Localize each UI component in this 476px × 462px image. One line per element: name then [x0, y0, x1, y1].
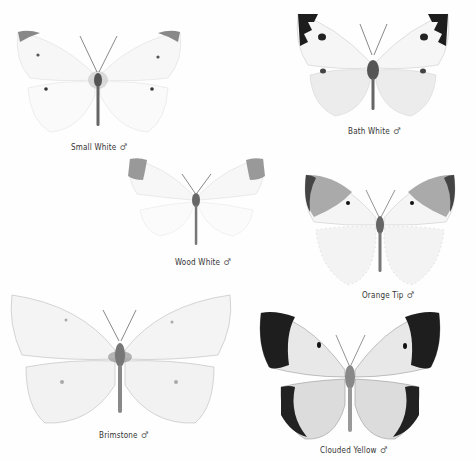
small-white-illustration	[0, 0, 200, 150]
male-symbol-icon: ♂	[393, 126, 400, 136]
male-symbol-icon: ♂	[141, 430, 148, 440]
butterfly-plate: Small White♂ Bath White♂	[0, 0, 476, 462]
specimen-label: Small White♂	[71, 142, 127, 152]
specimen-wood-white: Wood White♂	[125, 150, 275, 275]
specimen-label: Orange Tip♂	[362, 290, 414, 300]
specimen-name: Bath White	[348, 127, 390, 136]
specimen-label: Bath White♂	[348, 126, 400, 136]
specimen-brimstone: Brimstone♂	[0, 285, 240, 462]
specimen-label: Clouded Yellow♂	[320, 445, 387, 455]
specimen-label: Wood White♂	[175, 257, 231, 267]
specimen-name: Orange Tip	[362, 291, 404, 300]
specimen-name: Small White	[71, 143, 116, 152]
specimen-name: Clouded Yellow	[320, 446, 377, 455]
specimen-bath-white: Bath White♂	[290, 0, 476, 150]
specimen-name: Brimstone	[99, 431, 138, 440]
specimen-label: Brimstone♂	[99, 430, 148, 440]
clouded-yellow-illustration	[255, 305, 455, 462]
specimen-small-white: Small White♂	[0, 0, 200, 150]
male-symbol-icon: ♂	[380, 445, 387, 455]
specimen-orange-tip: Orange Tip♂	[300, 170, 476, 305]
specimen-name: Wood White	[175, 258, 220, 267]
male-symbol-icon: ♂	[223, 257, 230, 267]
male-symbol-icon: ♂	[407, 290, 414, 300]
specimen-clouded-yellow: Clouded Yellow♂	[255, 305, 455, 462]
orange-tip-illustration	[300, 170, 476, 305]
